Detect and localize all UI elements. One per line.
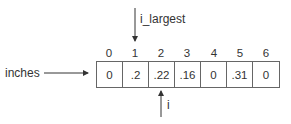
array-name-label: inches: [5, 66, 40, 80]
index-label: 6: [253, 46, 279, 60]
index-label: 0: [96, 46, 122, 60]
array-cell: .16: [175, 62, 201, 87]
array-cell: .2: [123, 62, 149, 87]
array-cell: 0: [201, 62, 227, 87]
i-label: i: [167, 98, 170, 112]
inches-array: 0 .2 .22 .16 0 .31 0: [96, 61, 280, 88]
index-label: 5: [227, 46, 253, 60]
array-cell: .31: [227, 62, 253, 87]
array-cell: .22: [149, 62, 175, 87]
index-label: 3: [174, 46, 200, 60]
array-cell: 0: [253, 62, 279, 87]
index-label: 4: [201, 46, 227, 60]
i-largest-label: i_largest: [140, 12, 185, 26]
index-label: 2: [148, 46, 174, 60]
index-label: 1: [122, 46, 148, 60]
array-cell: 0: [97, 62, 123, 87]
